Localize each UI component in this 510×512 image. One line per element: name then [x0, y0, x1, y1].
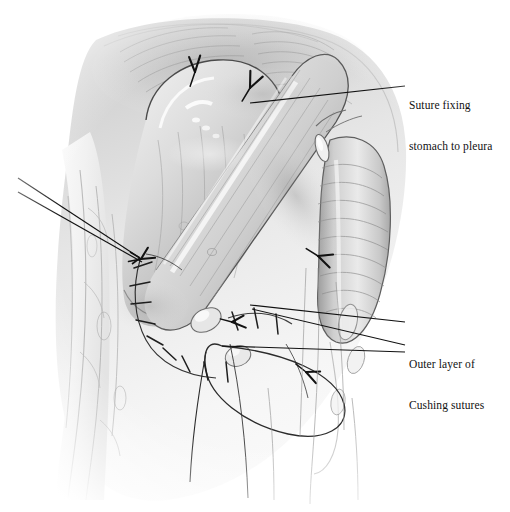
- label-line-1: Suture fixing: [409, 99, 492, 113]
- surgical-illustration-figure: Suture fixing stomach to pleura Outer la…: [0, 0, 510, 512]
- label-line-2: stomach to pleura: [409, 140, 492, 154]
- label-line-2: Cushing sutures: [409, 399, 484, 413]
- label-line-1: Outer layer of: [409, 358, 484, 372]
- label-suture-fixing-stomach-to-pleura: Suture fixing stomach to pleura: [409, 72, 492, 180]
- label-outer-layer-of-cushing-sutures: Outer layer of Cushing sutures: [409, 331, 484, 439]
